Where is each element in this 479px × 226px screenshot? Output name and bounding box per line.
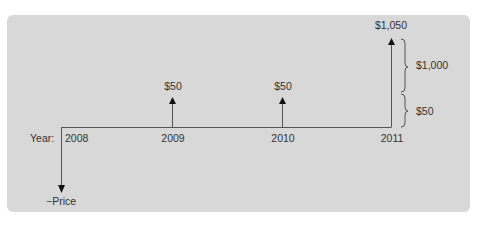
year-label-2011: 2011 — [381, 133, 404, 144]
brace-principal — [401, 39, 408, 92]
arrow-up-icon — [279, 97, 286, 104]
brace-coupon — [401, 94, 408, 127]
arrow-up-icon — [169, 97, 176, 104]
inflow-arrow-2010 — [279, 97, 286, 128]
arrow-up-icon — [388, 38, 395, 45]
inflow-arrow-2011 — [388, 38, 395, 128]
outflow-arrow-2008 — [58, 128, 65, 194]
year-label-2010: 2010 — [271, 133, 294, 144]
axis-label: Year: — [30, 133, 54, 144]
inflow-arrow-2009 — [169, 97, 176, 128]
arrow-down-icon — [58, 185, 65, 193]
brace-label-principal: $1,000 — [416, 60, 448, 71]
outflow-label: −Price — [46, 196, 76, 207]
brace-label-coupon: $50 — [416, 106, 434, 117]
year-label-2009: 2009 — [161, 133, 184, 144]
inflow-label-2010: $50 — [274, 81, 292, 92]
page: Year: 2008 2009 2010 2011 −Price $50 $50… — [0, 0, 479, 226]
inflow-label-2009: $50 — [164, 81, 182, 92]
cash-flow-timeline — [0, 0, 479, 226]
inflow-label-2011: $1,050 — [375, 20, 407, 31]
year-label-2008: 2008 — [65, 133, 88, 144]
